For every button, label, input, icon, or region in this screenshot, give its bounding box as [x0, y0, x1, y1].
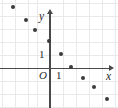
x-axis-label: x	[106, 71, 111, 82]
gridline-horizontal	[0, 42, 118, 43]
x-axis	[0, 68, 110, 70]
gridline-horizontal	[0, 16, 118, 17]
origin-label: O	[39, 70, 47, 81]
gridline-horizontal	[0, 3, 118, 4]
gridline-horizontal	[0, 81, 118, 82]
gridline-horizontal	[0, 94, 118, 95]
gridline-horizontal	[0, 107, 118, 108]
gridline-horizontal	[0, 29, 118, 30]
y-axis	[49, 14, 51, 108]
data-point	[81, 76, 86, 81]
data-point	[105, 97, 110, 102]
x-axis-tick-label-1: 1	[56, 70, 62, 81]
y-axis-label: y	[39, 11, 44, 22]
coordinate-plane-scatter-chart: y x O 1 1	[0, 0, 118, 108]
y-axis-tick-label-1: 1	[39, 49, 45, 60]
data-point	[92, 85, 97, 90]
y-axis-arrowhead	[47, 9, 53, 14]
